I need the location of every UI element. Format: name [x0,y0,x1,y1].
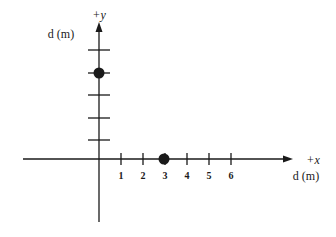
x-tick-label-6: 6 [229,170,234,181]
y-axis-direction-label: +y [92,8,106,22]
x-axis-direction-label: +x [306,153,320,167]
x-tick-label-4: 4 [185,170,190,181]
x-axis-unit-label: d (m) [293,169,319,183]
point-on-y-axis [94,68,105,79]
coordinate-diagram: 1 2 3 4 5 6 +y d (m) +x d (m) [0,0,336,237]
x-tick-label-3: 3 [163,170,168,181]
x-tick-label-5: 5 [207,170,212,181]
y-axis-arrow-icon [96,22,103,32]
x-tick-label-1: 1 [119,170,124,181]
x-tick-label-2: 2 [141,170,146,181]
y-axis-unit-label: d (m) [48,27,74,41]
point-on-x-axis [159,154,170,165]
x-axis-arrow-icon [283,156,293,163]
